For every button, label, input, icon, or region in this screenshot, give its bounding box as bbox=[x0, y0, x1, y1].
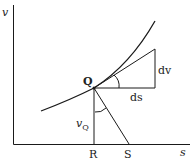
dv-label: dv bbox=[158, 65, 171, 76]
normal-QS bbox=[94, 88, 129, 144]
point-S-label: S bbox=[124, 149, 132, 160]
ds-label: ds bbox=[130, 92, 143, 103]
tangent-line bbox=[94, 49, 155, 88]
diagram-lines bbox=[0, 0, 191, 161]
point-R-label: R bbox=[89, 149, 97, 160]
point-Q-label: Q bbox=[83, 76, 93, 87]
y-axis-label: v bbox=[2, 7, 8, 18]
normal-angle-arc bbox=[95, 108, 106, 112]
vQ-label: vQ bbox=[76, 118, 89, 132]
velocity-distance-diagram: v s Q R S dv ds vQ bbox=[0, 0, 191, 161]
x-axis-label: s bbox=[180, 147, 186, 158]
tangent-angle-arc bbox=[114, 75, 119, 88]
